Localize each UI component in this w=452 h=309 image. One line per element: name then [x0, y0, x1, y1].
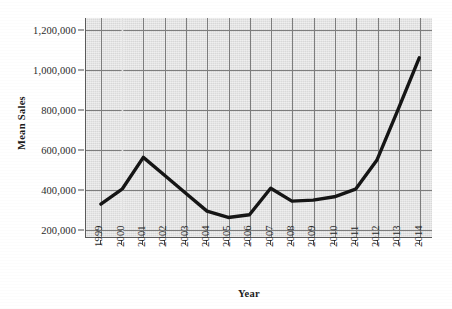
y-axis-tick-labels: 200,000400,000600,000800,0001,000,0001,2…	[0, 18, 76, 238]
x-axis-tick-label: 2005	[221, 225, 232, 247]
x-axis-tick-label: 2011	[349, 226, 360, 247]
x-axis-tick-label: 2014	[413, 225, 424, 247]
x-axis-tick-label: 2012	[370, 225, 381, 247]
y-axis-tick-mark	[78, 70, 84, 71]
data-line	[101, 58, 419, 218]
x-axis-tick-label: 2009	[306, 225, 317, 247]
x-axis-tick-label: 2003	[179, 225, 190, 247]
y-axis-tick-label: 1,000,000	[33, 65, 76, 76]
x-axis-tick-label: 2008	[285, 225, 296, 247]
x-axis-tick-label: 2006	[242, 225, 253, 247]
plot-area	[85, 18, 432, 238]
x-axis-tick-label: 2004	[200, 225, 211, 247]
y-axis-tick-label: 1,200,000	[33, 25, 76, 36]
y-axis-tick-label: 800,000	[41, 105, 76, 116]
y-axis-tick-mark	[78, 30, 84, 31]
y-axis-tick-mark	[78, 150, 84, 151]
x-axis-tick-label: 2010	[328, 225, 339, 247]
x-axis-tick-labels: 1999200020012002200320042005200620072008…	[85, 240, 432, 284]
chart-figure: Mean Sales 200,000400,000600,000800,0001…	[0, 0, 452, 309]
x-axis-tick-label: 2013	[391, 225, 402, 247]
x-axis-tick-label: 2007	[264, 225, 275, 247]
y-axis-tick-label: 400,000	[41, 185, 76, 196]
y-axis-tick-mark	[78, 230, 84, 231]
x-axis-title: Year	[0, 288, 452, 299]
x-axis-tick-label: 2002	[157, 225, 168, 247]
y-axis-tick-mark	[78, 110, 84, 111]
x-axis-tick-label: 1999	[93, 225, 104, 247]
x-axis-tick-label: 2001	[136, 225, 147, 247]
x-axis-tick-label: 2000	[115, 225, 126, 247]
y-axis-tick-mark	[78, 190, 84, 191]
series-line-mean-sales	[86, 18, 432, 237]
y-axis-tick-label: 200,000	[41, 225, 76, 236]
y-axis-tick-label: 600,000	[41, 145, 76, 156]
